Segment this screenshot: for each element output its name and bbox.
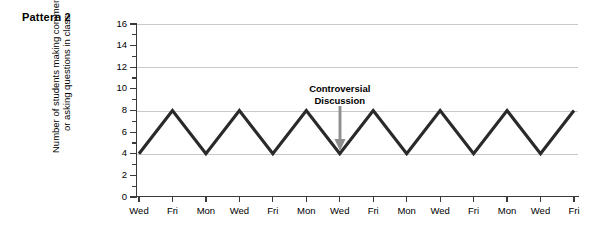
x-tick-7 (373, 197, 374, 202)
annotation-line-2: Discussion (283, 95, 397, 107)
y-tick-minor-9 (132, 99, 137, 100)
gridline-12 (137, 67, 578, 68)
down-arrow-icon (332, 106, 348, 152)
y-tick-4 (130, 153, 137, 154)
x-tick-4 (272, 197, 273, 202)
y-tick-minor-5 (132, 142, 137, 143)
y-tick-label-0: 0 (101, 191, 127, 202)
x-tick-9 (440, 197, 441, 202)
y-tick-10 (130, 88, 137, 89)
gridline-4 (137, 154, 578, 155)
annotation-line-1: Controversial (283, 83, 397, 95)
x-tick-13 (573, 197, 574, 202)
x-tick-2 (205, 197, 206, 202)
x-tick-10 (473, 197, 474, 202)
y-tick-minor-13 (132, 56, 137, 57)
y-axis-title: Number of students making comments or as… (50, 0, 72, 153)
y-tick-minor-15 (132, 34, 137, 35)
y-tick-label-8: 8 (101, 104, 127, 115)
y-tick-0 (130, 196, 137, 197)
gridline-8 (137, 111, 578, 112)
y-tick-label-16: 16 (101, 18, 127, 29)
x-tick-1 (172, 197, 173, 202)
y-tick-8 (130, 110, 137, 111)
y-axis-title-line-1: Number of students making comments (50, 0, 61, 153)
x-tick-8 (406, 197, 407, 202)
x-tick-11 (506, 197, 507, 202)
x-tick-6 (339, 197, 340, 202)
y-tick-minor-1 (132, 186, 137, 187)
y-tick-12 (130, 67, 137, 68)
y-tick-label-4: 4 (101, 147, 127, 158)
y-tick-label-10: 10 (101, 82, 127, 93)
gridline-16 (137, 24, 578, 25)
y-tick-2 (130, 175, 137, 176)
chart-figure: Pattern 2 Number of students making comm… (0, 0, 605, 233)
y-tick-minor-7 (132, 121, 137, 122)
x-tick-12 (540, 197, 541, 202)
y-tick-label-6: 6 (101, 126, 127, 137)
x-tick-3 (239, 197, 240, 202)
x-tick-label-13: Fri (552, 205, 596, 216)
y-tick-16 (130, 23, 137, 24)
y-tick-label-2: 2 (101, 169, 127, 180)
y-tick-14 (130, 45, 137, 46)
y-tick-label-14: 14 (101, 39, 127, 50)
y-tick-label-12: 12 (101, 61, 127, 72)
x-tick-0 (138, 197, 139, 202)
y-tick-minor-3 (132, 164, 137, 165)
y-tick-minor-11 (132, 77, 137, 78)
y-axis-title-line-2: or asking questions in class (61, 0, 72, 153)
x-tick-5 (306, 197, 307, 202)
x-axis-line (136, 196, 579, 197)
plot-area (137, 24, 578, 197)
y-tick-6 (130, 132, 137, 133)
annotation-label: Controversial Discussion (283, 83, 397, 106)
